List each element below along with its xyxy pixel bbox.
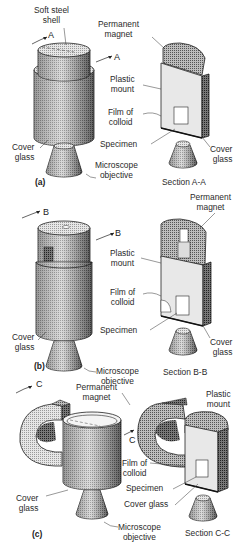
label-microscope-objective-c: Microscope objective (118, 523, 161, 542)
section-label-c: Section C-C (185, 528, 230, 538)
label-film-of-colloid-a: Film of colloid (108, 108, 133, 127)
cut-marker-a-right: A (114, 52, 120, 62)
label-cover-glass-a-right: Cover glass (210, 145, 232, 164)
cut-marker-b-right: B (115, 228, 121, 238)
label-plastic-mount-c: Plastic mount (206, 390, 231, 409)
section-label-b: Section B-B (163, 367, 207, 377)
label-specimen-b: Specimen (100, 326, 137, 336)
label-plastic-mount-a: Plastic mount (110, 75, 135, 94)
cut-marker-b-left: B (43, 207, 49, 217)
label-specimen-c: Specimen (126, 484, 163, 494)
label-cover-glass-c-left: Cover glass (16, 494, 38, 513)
cut-marker-a-left: A (48, 30, 54, 40)
label-microscope-objective-a: Microscope objective (95, 161, 138, 180)
label-soft-steel-shell: Soft steel shell (34, 6, 69, 25)
cut-marker-c-left: C (36, 379, 43, 389)
label-plastic-mount-b: Plastic mount (110, 249, 135, 268)
panel-label-c: (c) (32, 529, 42, 539)
label-permanent-magnet-c: Permanent magnet (76, 383, 117, 402)
label-permanent-magnet-b: Permanent magnet (190, 193, 231, 212)
panel-a-section (143, 37, 210, 168)
label-specimen-a: Specimen (100, 140, 137, 150)
panel-b-assembly (22, 211, 114, 372)
panel-a-plastic-mount (161, 63, 202, 138)
label-cover-glass-b-left: Cover glass (12, 333, 34, 352)
cut-marker-c-right: C (129, 435, 136, 445)
label-film-of-colloid-b: Film of colloid (110, 288, 135, 307)
label-film-of-colloid-c: Film of colloid (122, 459, 147, 478)
label-cover-glass-b-right: Cover glass (210, 338, 232, 357)
panel-label-a: (a) (35, 177, 45, 187)
label-cover-glass-a-left: Cover glass (12, 143, 34, 162)
label-cover-glass-c-right: Cover glass (124, 500, 168, 510)
panel-b-section (141, 213, 215, 355)
section-label-a: Section A-A (162, 177, 206, 187)
panel-label-b: (b) (34, 361, 45, 371)
panel-a-assembly (32, 28, 112, 178)
label-permanent-magnet-a: Permanent magnet (98, 20, 139, 39)
